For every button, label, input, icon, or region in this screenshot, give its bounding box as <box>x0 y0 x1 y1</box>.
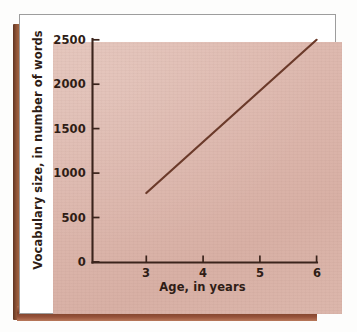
x-tick-label-3: 3 <box>132 266 160 280</box>
x-tick-label-4: 4 <box>189 266 217 280</box>
y-tick-label-0: 0 <box>42 255 86 269</box>
y-axis-title: Vocabulary size, in number of words <box>31 30 45 270</box>
y-tick-label-1500: 1500 <box>42 122 86 136</box>
scan-page-background: 2500 2000 1500 1000 500 0 3 4 5 6 Vocabu… <box>0 0 357 332</box>
y-tick-label-1000: 1000 <box>42 166 86 180</box>
x-tick-label-5: 5 <box>246 266 274 280</box>
figure-frame <box>19 14 336 314</box>
y-tick-label-2000: 2000 <box>42 77 86 91</box>
y-tick-label-500: 500 <box>42 211 86 225</box>
x-tick-label-6: 6 <box>303 266 331 280</box>
x-axis-title: Age, in years <box>0 280 357 294</box>
y-tick-label-2500: 2500 <box>42 33 86 47</box>
